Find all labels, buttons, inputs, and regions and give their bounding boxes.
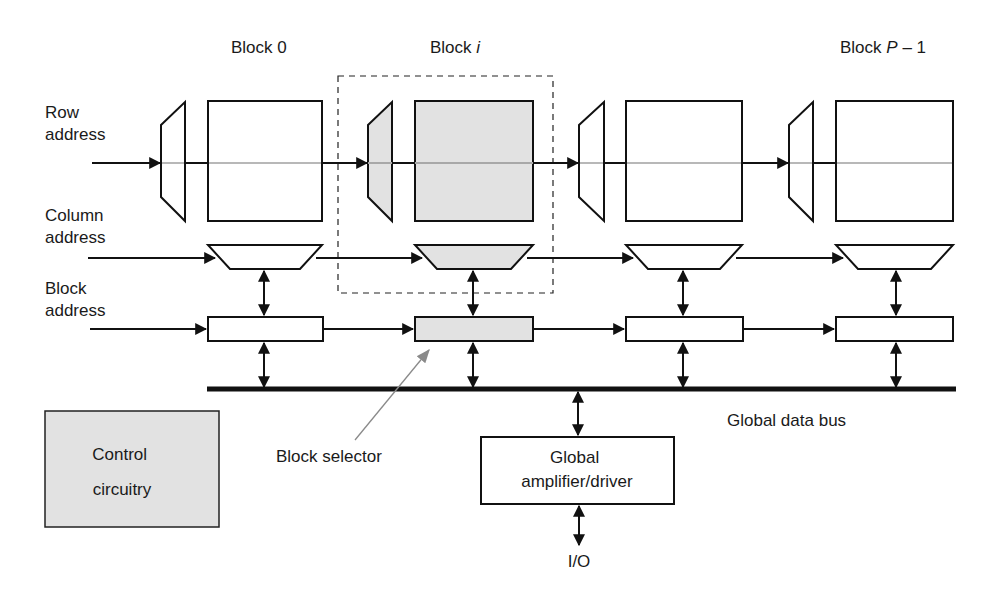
column-decoder-i (415, 245, 533, 269)
block-selector-0 (208, 317, 323, 341)
block-0 (161, 101, 323, 341)
control-circuitry (45, 411, 219, 527)
row-decoder-i (368, 102, 392, 221)
block-2 (579, 101, 743, 341)
column-decoder-2 (626, 245, 742, 269)
column-decoder-0 (208, 245, 322, 269)
memory-block-diagram: Block 0 Block i Block P – 1 Row address … (0, 0, 993, 590)
row-decoder-p-minus-1 (789, 102, 813, 221)
memory-array-2 (626, 101, 742, 221)
memory-array-p-minus-1 (836, 101, 953, 221)
row-address-label: Row address (45, 103, 105, 144)
memory-array-i (415, 101, 533, 221)
column-decoder-p-minus-1 (836, 245, 953, 269)
global-data-bus-label: Global data bus (727, 411, 846, 430)
memory-array-0 (208, 101, 322, 221)
block-address-label: Block address (45, 279, 105, 320)
block-p-minus-1 (789, 101, 953, 341)
block-selector-label: Block selector (276, 447, 382, 466)
block-selector-pointer (355, 350, 429, 440)
row-decoder-2 (579, 102, 604, 221)
column-address-label: Column address (45, 206, 108, 247)
block-i-title: Block i (430, 38, 481, 57)
block-selector-p-minus-1 (836, 317, 953, 341)
block-p-minus-1-title: Block P – 1 (840, 38, 926, 57)
block-i (368, 101, 533, 341)
io-label: I/O (568, 552, 591, 571)
block-selector-2 (626, 317, 743, 341)
block-selector-i (415, 317, 533, 341)
row-decoder-0 (161, 102, 185, 221)
block-0-title: Block 0 (231, 38, 287, 57)
